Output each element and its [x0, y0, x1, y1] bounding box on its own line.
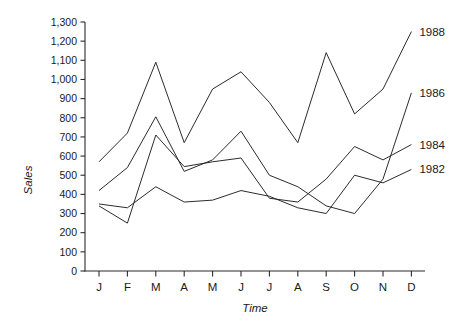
x-tick-label: N	[379, 281, 387, 293]
y-tick-label: 1,100	[51, 54, 77, 66]
series-line-1986	[99, 93, 411, 214]
y-tick-label: 600	[59, 150, 77, 162]
x-axis-label-group: JFMAMJJASOND	[96, 281, 415, 293]
x-tick-label: J	[238, 281, 244, 293]
x-axis-tick-group	[99, 271, 411, 277]
series-line-group	[99, 32, 411, 224]
series-label-group: 1988198619841982	[419, 26, 445, 176]
series-label-1986: 1986	[419, 87, 445, 99]
series-label-1984: 1984	[419, 139, 445, 151]
x-axis-title: Time	[242, 302, 267, 314]
y-axis-label-group: 01002003004005006007008009001,0001,1001,…	[51, 16, 77, 277]
x-tick-label: S	[322, 281, 330, 293]
y-tick-label: 1,300	[51, 16, 77, 28]
y-tick-label: 900	[59, 92, 77, 104]
y-tick-label: 1,000	[51, 73, 77, 85]
y-tick-label: 800	[59, 112, 77, 124]
y-tick-label: 100	[59, 246, 77, 258]
series-label-1988: 1988	[419, 26, 445, 38]
x-tick-label: O	[350, 281, 359, 293]
y-tick-label: 400	[59, 188, 77, 200]
series-label-1982: 1982	[419, 163, 445, 175]
y-tick-label: 1,200	[51, 35, 77, 47]
y-tick-label: 300	[59, 207, 77, 219]
y-tick-label: 500	[59, 169, 77, 181]
y-tick-label: 200	[59, 226, 77, 238]
x-tick-label: F	[124, 281, 131, 293]
y-tick-label: 700	[59, 131, 77, 143]
x-tick-label: J	[267, 281, 273, 293]
x-tick-label: M	[208, 281, 218, 293]
x-tick-label: M	[151, 281, 161, 293]
x-tick-label: D	[407, 281, 415, 293]
x-tick-label: A	[294, 281, 302, 293]
x-tick-label: J	[96, 281, 102, 293]
series-line-1988	[99, 32, 411, 162]
y-axis-tick-group	[81, 22, 86, 271]
line-chart: 01002003004005006007008009001,0001,1001,…	[0, 0, 467, 328]
x-tick-label: A	[180, 281, 188, 293]
chart-svg: 01002003004005006007008009001,0001,1001,…	[0, 0, 467, 328]
y-axis-title: Sales	[22, 165, 34, 194]
series-line-1982	[99, 169, 411, 213]
y-tick-label: 0	[71, 265, 77, 277]
series-line-1984	[99, 135, 411, 223]
